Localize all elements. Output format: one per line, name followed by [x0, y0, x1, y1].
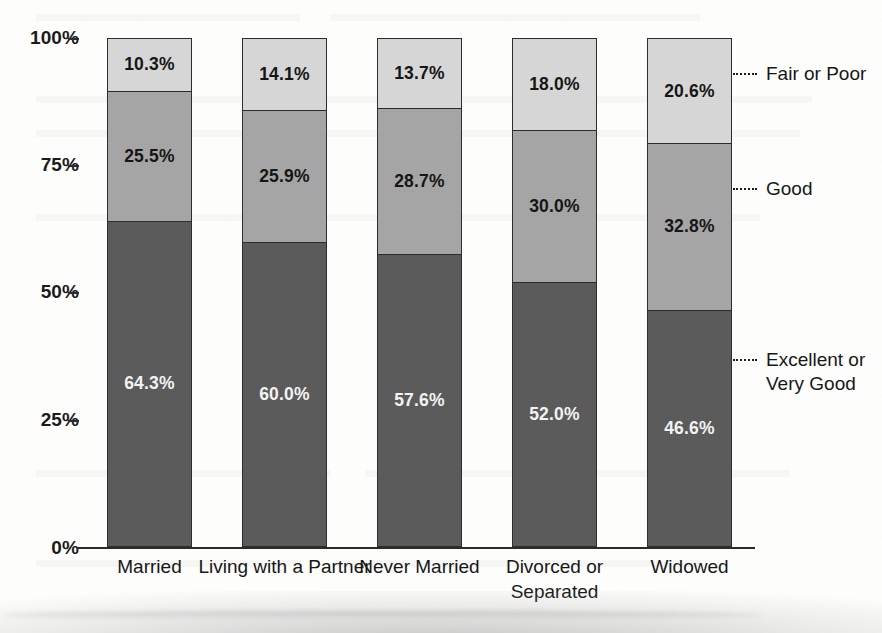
y-tick-mark-25 [68, 420, 79, 422]
segment-value-label: 25.9% [259, 166, 310, 187]
legend-label-fair-or-poor: Fair or Poor [766, 62, 866, 86]
segment-value-label: 20.6% [664, 81, 715, 102]
segment-good[interactable]: 28.7% [378, 108, 461, 254]
segment-value-label: 14.1% [259, 64, 310, 85]
x-label-widowed: Widowed [602, 554, 777, 579]
segment-fair-or-poor[interactable]: 13.7% [378, 39, 461, 108]
segment-value-label: 18.0% [529, 74, 580, 95]
segment-excellent-or-very-good[interactable]: 64.3% [108, 221, 191, 546]
segment-good[interactable]: 32.8% [648, 143, 731, 310]
bar-divorced-or-separated[interactable]: 18.0% 30.0% 52.0% [512, 38, 597, 547]
segment-value-label: 52.0% [529, 404, 580, 425]
segment-value-label: 28.7% [394, 171, 445, 192]
legend-label-excellent-or-very-good: Excellent or Very Good [766, 348, 865, 397]
legend-label-good: Good [766, 177, 812, 201]
legend-leader-line-icon [733, 188, 757, 191]
segment-value-label: 10.3% [124, 54, 175, 75]
y-tick-mark-100 [68, 38, 79, 40]
segment-good[interactable]: 25.9% [243, 110, 326, 242]
segment-fair-or-poor[interactable]: 20.6% [648, 39, 731, 143]
stacked-bar-chart: 100% 75% 50% 25% 0% 10 [0, 0, 882, 633]
segment-good[interactable]: 30.0% [513, 130, 596, 283]
legend-leader-line-icon [733, 359, 757, 362]
segment-value-label: 60.0% [259, 384, 310, 405]
bar-never-married[interactable]: 13.7% 28.7% 57.6% [377, 38, 462, 547]
segment-value-label: 64.3% [124, 373, 175, 394]
legend-item-good[interactable]: Good [733, 177, 812, 201]
segment-fair-or-poor[interactable]: 14.1% [243, 39, 326, 110]
bar-living-with-a-partner[interactable]: 14.1% 25.9% 60.0% [242, 38, 327, 547]
segment-excellent-or-very-good[interactable]: 57.6% [378, 254, 461, 546]
bar-widowed[interactable]: 20.6% 32.8% 46.6% [647, 38, 732, 547]
segment-value-label: 30.0% [529, 196, 580, 217]
segment-value-label: 32.8% [664, 216, 715, 237]
segment-fair-or-poor[interactable]: 18.0% [513, 39, 596, 130]
segment-value-label: 13.7% [394, 63, 445, 84]
segment-fair-or-poor[interactable]: 10.3% [108, 39, 191, 91]
segment-value-label: 46.6% [664, 418, 715, 439]
segment-value-label: 25.5% [124, 146, 175, 167]
x-axis-line [77, 547, 755, 549]
legend-leader-line-icon [733, 73, 757, 76]
scanned-page: 100% 75% 50% 25% 0% 10 [0, 0, 882, 633]
legend-item-excellent-or-very-good[interactable]: Excellent or Very Good [733, 348, 865, 397]
segment-excellent-or-very-good[interactable]: 60.0% [243, 242, 326, 546]
y-tick-mark-50 [68, 292, 79, 294]
segment-value-label: 57.6% [394, 390, 445, 411]
y-tick-mark-75 [68, 165, 79, 167]
bar-married[interactable]: 10.3% 25.5% 64.3% [107, 38, 192, 547]
legend-item-fair-or-poor[interactable]: Fair or Poor [733, 62, 866, 86]
segment-excellent-or-very-good[interactable]: 46.6% [648, 310, 731, 546]
segment-excellent-or-very-good[interactable]: 52.0% [513, 282, 596, 546]
segment-good[interactable]: 25.5% [108, 91, 191, 221]
